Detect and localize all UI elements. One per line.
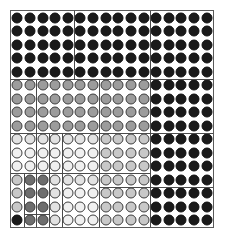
circle-marker [12,201,23,212]
grid-cell [163,65,176,79]
circle-marker [62,93,73,104]
circle-marker [100,93,111,104]
circle-marker [189,201,200,212]
circle-marker [88,134,99,145]
circle-marker [24,107,35,118]
grid-cell [112,52,125,66]
circle-marker [88,12,99,23]
grid-cell [150,52,163,66]
circle-marker [151,161,162,172]
circle-marker [75,174,86,185]
grid-cell [49,187,62,201]
circle-marker [88,215,99,226]
grid-cell [188,25,201,39]
grid-cell [87,25,100,39]
circle-marker [176,134,187,145]
grid-cell [150,173,163,187]
circle-marker [189,161,200,172]
circle-marker [88,80,99,91]
circle-marker [100,107,111,118]
grid-cell [11,25,24,39]
circle-marker [176,93,187,104]
circle-marker [50,93,61,104]
grid-cell [175,65,188,79]
grid-cell [163,119,176,133]
circle-marker [37,93,48,104]
grid-cell [87,106,100,120]
circle-marker [189,174,200,185]
circle-marker [75,134,86,145]
grid-cell [188,187,201,201]
circle-marker [113,66,124,77]
circle-marker [75,53,86,64]
circle-marker [138,39,149,50]
grid-cell [62,214,75,228]
grid-cell [163,38,176,52]
grid-cell [36,65,49,79]
circle-marker [37,53,48,64]
grid-cell [36,133,49,147]
circle-marker [163,201,174,212]
circle-marker [24,26,35,37]
circle-grid [11,11,213,227]
circle-marker [201,66,212,77]
circle-marker [151,134,162,145]
circle-marker [163,161,174,172]
circle-marker [125,80,136,91]
circle-marker [138,201,149,212]
grid-cell [163,187,176,201]
grid-cell [200,106,213,120]
circle-marker [163,147,174,158]
circle-marker [37,26,48,37]
grid-cell [62,106,75,120]
circle-marker [37,188,48,199]
grid-cell [62,146,75,160]
grid-cell [36,52,49,66]
grid-cell [150,11,163,25]
circle-marker [37,39,48,50]
circle-marker [201,174,212,185]
grid-cell [112,38,125,52]
circle-marker [138,66,149,77]
circle-marker [138,107,149,118]
circle-marker [151,201,162,212]
circle-marker [201,161,212,172]
circle-marker [12,12,23,23]
circle-marker [12,215,23,226]
grid-cell [36,214,49,228]
circle-marker [189,93,200,104]
circle-marker [62,215,73,226]
grid-cell [188,133,201,147]
grid-cell [74,133,87,147]
circle-marker [100,66,111,77]
grid-cell [112,25,125,39]
grid-cell [112,200,125,214]
grid-cell [99,38,112,52]
circle-marker [50,80,61,91]
screenshot-root [0,0,225,239]
grid-cell [137,200,150,214]
grid-cell [62,187,75,201]
circle-marker [189,188,200,199]
grid-cell [99,160,112,174]
circle-marker [12,53,23,64]
circle-marker [37,174,48,185]
grid-cell [137,106,150,120]
grid-cell [36,187,49,201]
circle-marker [75,161,86,172]
grid-cell [36,160,49,174]
grid-cell [175,146,188,160]
grid-cell [163,173,176,187]
grid-cell [36,173,49,187]
grid-cell [175,133,188,147]
circle-marker [176,107,187,118]
circle-marker [151,147,162,158]
grid-cell [87,160,100,174]
circle-marker [125,107,136,118]
circle-marker [24,188,35,199]
grid-cell [62,52,75,66]
grid-cell [150,106,163,120]
grid-cell [99,187,112,201]
circle-marker [176,26,187,37]
circle-marker [37,66,48,77]
